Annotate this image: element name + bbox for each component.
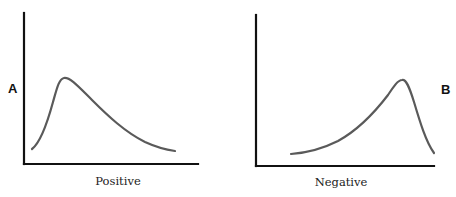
skewness-figure: [0, 0, 456, 197]
chart-negative-skew: [256, 15, 434, 166]
panel-label-a: A: [8, 81, 17, 96]
chart-positive-skew: [24, 13, 198, 164]
panel-label-b: B: [441, 82, 450, 97]
curve-negative-skew: [291, 80, 434, 154]
x-axis-label-negative: Negative: [315, 175, 368, 189]
curve-positive-skew: [32, 78, 175, 151]
x-axis-label-positive: Positive: [95, 174, 140, 188]
